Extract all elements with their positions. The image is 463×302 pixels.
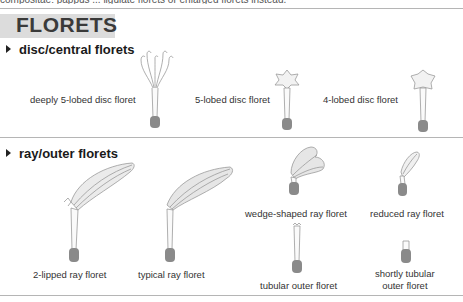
section-divider	[0, 137, 463, 138]
section-heading-disc: disc/central florets	[6, 42, 135, 57]
label-typical: typical ray floret	[138, 269, 205, 280]
shortly-tubular-outer-floret-icon	[399, 240, 413, 266]
bottom-divider	[0, 295, 463, 296]
reduced-ray-floret-icon	[393, 148, 423, 196]
label-5-lobed: 5-lobed disc floret	[195, 94, 270, 105]
label-shortly-tubular: shortly tubular outer floret	[375, 268, 435, 292]
typical-ray-floret-icon	[160, 165, 235, 265]
wedge-shaped-ray-floret-icon	[283, 143, 331, 195]
truncated-caption: compositae: pappus ... ligulate florets …	[0, 0, 463, 4]
2-lipped-ray-floret-icon	[56, 160, 136, 265]
label-wedge-shaped: wedge-shaped ray floret	[245, 208, 347, 219]
5-lobed-disc-floret-icon	[272, 68, 302, 130]
triangle-bullet-icon	[6, 45, 11, 53]
tubular-outer-floret-icon	[289, 222, 305, 274]
label-2-lipped: 2-lipped ray floret	[33, 269, 106, 280]
deeply-5-lobed-disc-floret-icon	[133, 48, 177, 128]
page-title: FLORETS	[16, 13, 118, 37]
triangle-bullet-icon	[6, 149, 11, 157]
top-divider	[0, 8, 463, 9]
4-lobed-disc-floret-icon	[408, 68, 438, 132]
section-heading-ray: ray/outer florets	[6, 146, 118, 161]
label-line-1: shortly tubular	[375, 268, 435, 280]
label-line-2: outer floret	[375, 280, 435, 292]
section-heading-text: disc/central florets	[19, 42, 135, 57]
label-tubular-outer: tubular outer floret	[260, 280, 337, 291]
label-reduced: reduced ray floret	[370, 208, 444, 219]
label-deeply-5-lobed: deeply 5-lobed disc floret	[30, 94, 136, 105]
section-heading-text: ray/outer florets	[19, 146, 118, 161]
label-4-lobed: 4-lobed disc floret	[323, 94, 398, 105]
